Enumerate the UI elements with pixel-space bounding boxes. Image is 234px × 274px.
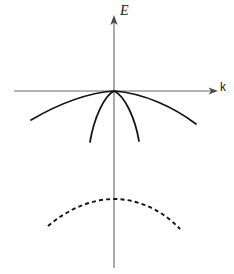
wavevector-axis-label: k	[220, 81, 226, 93]
energy-axis-label: E	[120, 4, 129, 18]
band-diagram-figure: E k	[0, 0, 234, 274]
band-diagram-canvas	[0, 0, 234, 274]
